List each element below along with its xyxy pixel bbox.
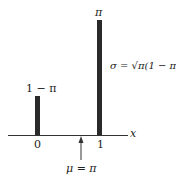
mean-annotation: μ = π xyxy=(66,163,97,175)
mean-arrow-icon xyxy=(0,0,176,182)
